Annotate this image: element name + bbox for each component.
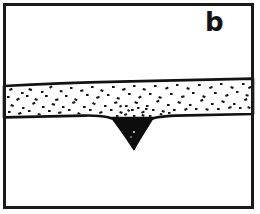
stippled-sand-bed [4,79,253,119]
sand-bed-outline [4,79,253,119]
figure-panel: b [0,0,260,214]
panel-label: b [205,9,224,35]
